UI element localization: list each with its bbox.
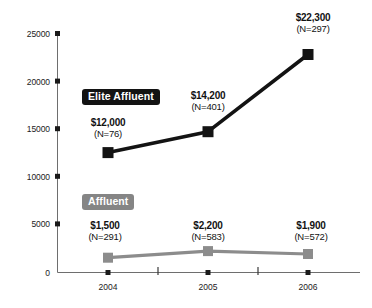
- data-label-elite-2005-value: $14,200: [167, 90, 249, 101]
- series-elite-marker-2006: [303, 49, 314, 60]
- x-axis-ticks: [106, 267, 311, 275]
- data-label-affluent-2004-count: (N=291): [64, 231, 146, 242]
- data-label-elite-2006-value: $22,300: [272, 12, 354, 23]
- data-label-affluent-2006-value: $1,900: [270, 220, 352, 231]
- data-label-elite-2006-count: (N=297): [272, 23, 354, 34]
- y-axis-label-25000: 25000: [10, 29, 50, 39]
- data-label-affluent-2004-value: $1,500: [64, 220, 146, 231]
- data-label-elite-2005: $14,200 (N=401): [167, 90, 249, 112]
- series-elite-marker-2004: [103, 147, 114, 158]
- series-elite-marker-2005: [203, 126, 214, 137]
- series-affluent-marker-2005: [203, 246, 213, 256]
- data-label-elite-2004: $12,000 (N=76): [67, 117, 149, 139]
- series-badge-affluent: Affluent: [82, 194, 134, 210]
- series-badge-elite-affluent: Elite Affluent: [82, 89, 160, 105]
- y-axis-label-0: 0: [10, 268, 50, 278]
- y-axis-label-20000: 20000: [10, 77, 50, 87]
- line-chart: 25000 20000 15000 10000 5000 0 2004 2005…: [0, 0, 372, 308]
- x-axis-label-2006: 2006: [285, 282, 331, 292]
- y-axis-label-5000: 5000: [10, 219, 50, 229]
- data-label-affluent-2006: $1,900 (N=572): [270, 220, 352, 242]
- data-label-affluent-2006-count: (N=572): [270, 231, 352, 242]
- series-affluent-marker-2006: [303, 249, 313, 259]
- data-label-affluent-2005-count: (N=583): [167, 231, 249, 242]
- data-label-affluent-2005: $2,200 (N=583): [167, 220, 249, 242]
- y-axis-label-10000: 10000: [10, 172, 50, 182]
- series-affluent: [103, 246, 313, 263]
- y-axis-label-15000: 15000: [10, 124, 50, 134]
- data-label-elite-2004-count: (N=76): [67, 128, 149, 139]
- series-affluent-marker-2004: [103, 253, 113, 263]
- data-label-affluent-2004: $1,500 (N=291): [64, 220, 146, 242]
- data-label-affluent-2005-value: $2,200: [167, 220, 249, 231]
- x-axis-label-2005: 2005: [185, 282, 231, 292]
- x-axis-label-2004: 2004: [85, 282, 131, 292]
- data-label-elite-2006: $22,300 (N=297): [272, 12, 354, 34]
- data-label-elite-2004-value: $12,000: [67, 117, 149, 128]
- data-label-elite-2005-count: (N=401): [167, 101, 249, 112]
- chart-plot-svg: [0, 0, 372, 308]
